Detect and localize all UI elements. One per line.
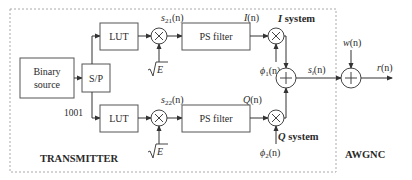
multiplier-bottom-icon	[151, 110, 167, 126]
I-label: I(n)	[243, 12, 259, 24]
bits-label: 1001	[64, 108, 83, 118]
binary-source-label-1: Binary	[33, 66, 60, 77]
i-system-label: I system	[277, 13, 315, 24]
binary-source-label-2: source	[34, 79, 61, 90]
s21-label: s21(n)	[161, 12, 184, 25]
sp-label: S/P	[89, 73, 103, 84]
svg-text:E: E	[156, 64, 163, 75]
q-system-label: Q system	[278, 131, 319, 142]
mixer-top-icon	[268, 28, 284, 44]
r-label: r(n)	[377, 62, 393, 74]
awgn-sum-node-icon	[341, 68, 361, 88]
multiplier-top-icon	[151, 28, 167, 44]
s22-label: s22(n)	[161, 94, 184, 107]
ps-filter-bottom-label: PS filter	[199, 113, 233, 124]
arrow-sp-to-lut-bottom	[92, 92, 100, 118]
si-label: si(n)	[308, 64, 326, 77]
lut-bottom-label: LUT	[109, 113, 128, 124]
mixer-bottom-icon	[268, 110, 284, 126]
channel-label: AWGNC	[345, 149, 385, 160]
ps-filter-top-label: PS filter	[199, 31, 233, 42]
arrow-mixer-top-to-sum	[284, 36, 286, 68]
transmitter-diagram: Binary source S/P 1001 LUT LUT E E s21(n…	[0, 0, 412, 180]
transmitter-label: TRANSMITTER	[40, 153, 119, 164]
sqrtE-bottom-label: E	[148, 144, 168, 158]
sum-node-icon	[276, 68, 296, 88]
phi2-label: ϕ2(n)	[260, 147, 280, 160]
w-label: w(n)	[343, 37, 361, 49]
svg-text:E: E	[156, 146, 163, 157]
lut-top-label: LUT	[109, 31, 128, 42]
sqrtE-top-label: E	[148, 62, 168, 76]
Q-label: Q(n)	[243, 94, 262, 106]
arrow-sp-to-lut-top	[92, 36, 100, 64]
binary-source-block	[20, 58, 74, 98]
arrow-mixer-bottom-to-sum	[284, 88, 286, 118]
